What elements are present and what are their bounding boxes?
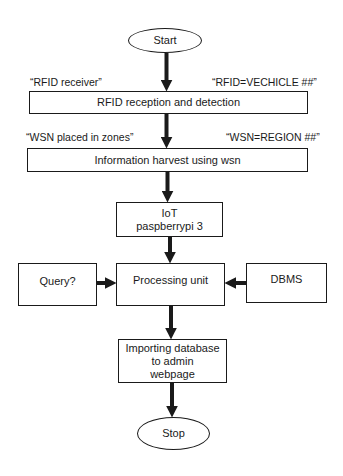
rfid-step-label: RFID reception and detection [97,96,240,109]
input-query: Query? [18,263,97,306]
annotation-rfid-vehicle: “RFID=VECHICLE ##” [212,76,317,88]
processing-label: Processing unit [133,274,208,287]
import-line-2: to admin [151,355,193,368]
import-line-1: Importing database [125,342,219,355]
process-import-database: Importing database to admin webpage [118,339,227,383]
annotation-wsn-region: “WSN=REGION ##” [226,131,320,143]
stop-label: Stop [162,427,185,440]
import-line-3: webpage [150,368,195,381]
input-dbms: DBMS [246,263,327,303]
iot-line-2: paspberrypi 3 [136,220,203,233]
process-information-harvest: Information harvest using wsn [27,148,308,172]
start-terminal: Start [128,28,202,53]
iot-line-1: IoT [162,207,178,220]
dbms-label: DBMS [271,273,303,286]
process-rfid-reception: RFID reception and detection [29,91,308,114]
process-processing-unit: Processing unit [116,263,225,306]
stop-terminal: Stop [137,417,210,450]
connector-arrows [0,0,343,476]
query-label: Query? [39,275,75,288]
annotation-rfid-receiver: “RFID receiver” [30,76,102,88]
start-label: Start [153,34,176,47]
wsn-step-label: Information harvest using wsn [94,154,240,167]
annotation-wsn-zones: “WSN placed in zones” [26,131,133,143]
process-iot-raspberrypi: IoT paspberrypi 3 [116,202,223,237]
